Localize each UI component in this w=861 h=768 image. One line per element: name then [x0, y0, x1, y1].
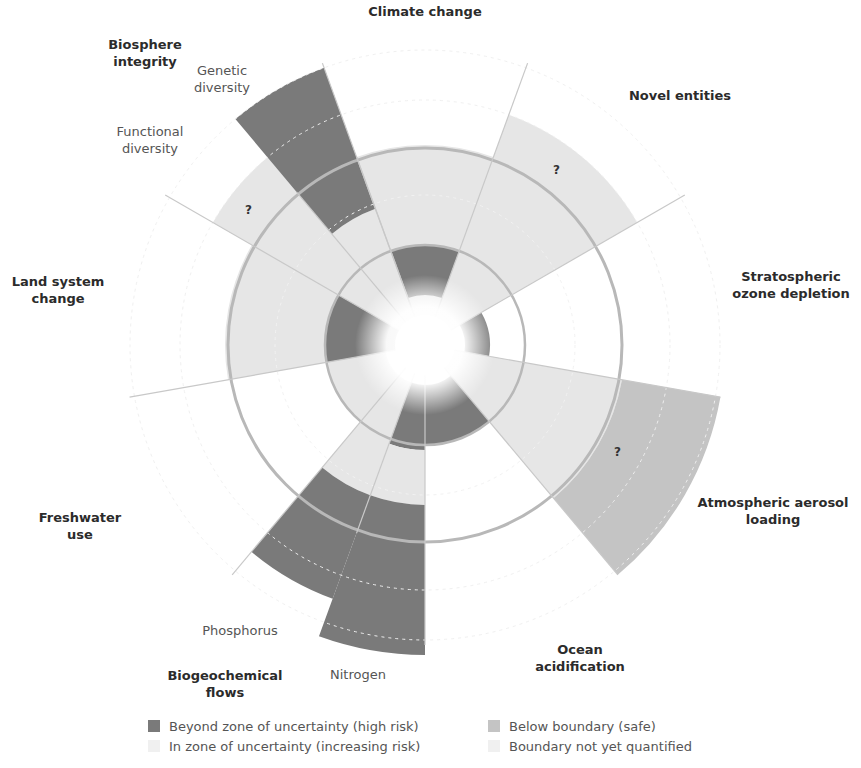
legend-item-in-zone: In zone of uncertainty (increasing risk)	[148, 736, 420, 756]
question-mark-aerosol: ?	[614, 445, 621, 459]
label-climate-change: Climate change	[345, 3, 505, 20]
label-ocean-acidification: Ocean acidification	[520, 641, 640, 675]
swatch-in-zone-icon	[148, 740, 160, 752]
label-freshwater-use: Freshwater use	[20, 509, 140, 543]
question-mark-functional: ?	[245, 203, 252, 217]
label-ozone-depletion: Stratospheric ozone depletion	[726, 268, 856, 302]
legend-right: Below boundary (safe) Boundary not yet q…	[488, 716, 692, 756]
label-phosphorus: Phosphorus	[190, 622, 290, 639]
planetary-boundaries-diagram	[0, 0, 861, 768]
label-genetic-diversity: Genetic diversity	[182, 62, 262, 96]
legend-left: Beyond zone of uncertainty (high risk) I…	[148, 716, 420, 756]
swatch-beyond-icon	[148, 720, 160, 732]
swatch-below-icon	[488, 720, 500, 732]
label-novel-entities: Novel entities	[610, 87, 750, 104]
legend-item-not-quantified: Boundary not yet quantified	[488, 736, 692, 756]
label-biogeochemical-flows: Biogeochemical flows	[155, 667, 295, 701]
label-nitrogen: Nitrogen	[318, 666, 398, 683]
label-functional-diversity: Functional diversity	[100, 123, 200, 157]
label-biosphere-integrity: Biosphere integrity	[95, 36, 195, 70]
label-aerosol-loading: Atmospheric aerosol loading	[688, 494, 858, 528]
legend-item-beyond: Beyond zone of uncertainty (high risk)	[148, 716, 420, 736]
legend-item-below: Below boundary (safe)	[488, 716, 692, 736]
question-mark-novel: ?	[553, 163, 560, 177]
label-land-system-change: Land system change	[0, 273, 116, 307]
swatch-not-quantified-icon	[488, 740, 500, 752]
center-glow	[355, 275, 495, 415]
